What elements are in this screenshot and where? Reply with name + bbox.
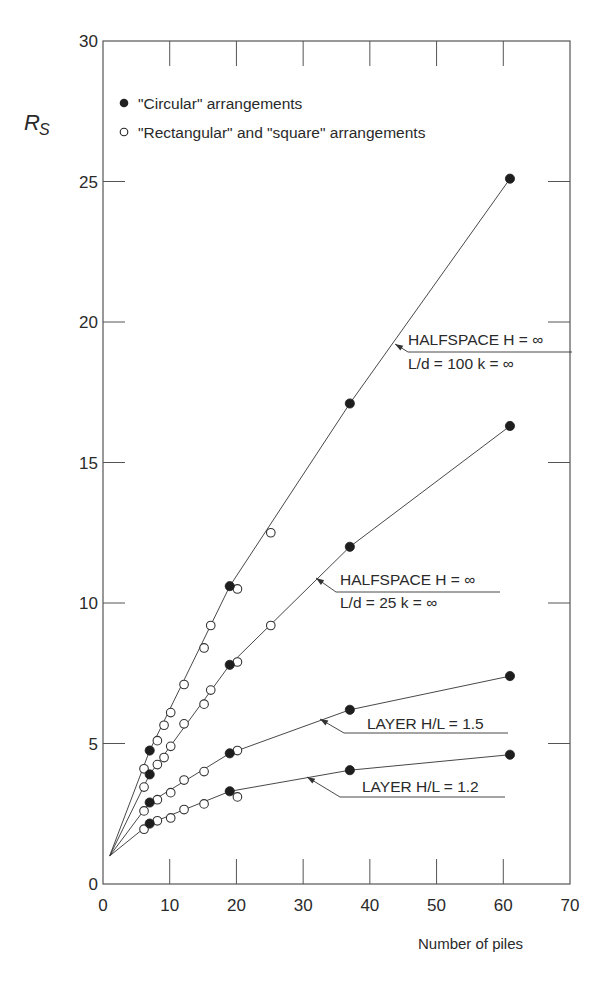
open-circle-point bbox=[206, 621, 215, 630]
series-line bbox=[110, 755, 510, 856]
filled-circle-point bbox=[505, 421, 514, 430]
open-circle-point bbox=[180, 776, 189, 785]
open-circle-point bbox=[200, 700, 209, 709]
filled-circle-point bbox=[505, 671, 514, 680]
open-circle-point bbox=[200, 644, 209, 653]
x-tick-label: 70 bbox=[561, 896, 580, 915]
y-tick-label: 20 bbox=[79, 313, 98, 332]
filled-circle-point bbox=[145, 798, 154, 807]
open-circle-point bbox=[166, 708, 175, 717]
legend-open-circle-icon bbox=[120, 128, 128, 136]
arrowhead-icon bbox=[307, 777, 315, 784]
arrowhead-icon bbox=[320, 719, 328, 725]
x-tick-label: 30 bbox=[294, 896, 313, 915]
filled-circle-point bbox=[225, 582, 234, 591]
legend-label-circular: "Circular" arrangements bbox=[138, 95, 303, 112]
series-lines bbox=[110, 179, 510, 856]
x-tick-label: 0 bbox=[98, 896, 107, 915]
legend: "Circular" arrangements "Rectangular" an… bbox=[120, 95, 426, 141]
arrowhead-icon bbox=[395, 344, 403, 351]
plot-frame bbox=[103, 41, 570, 884]
open-circle-point bbox=[166, 742, 175, 751]
filled-circle-point bbox=[145, 746, 154, 755]
series-line bbox=[110, 676, 510, 856]
y-axis-title: R S bbox=[24, 110, 50, 138]
x-tick-label: 40 bbox=[360, 896, 379, 915]
filled-circle-point bbox=[145, 770, 154, 779]
series-line bbox=[110, 179, 510, 856]
x-tick-label: 20 bbox=[227, 896, 246, 915]
x-tick-label: 60 bbox=[494, 896, 513, 915]
y-tick-label: 10 bbox=[79, 594, 98, 613]
y-tick-label: 25 bbox=[79, 173, 98, 192]
open-circle-point bbox=[233, 793, 242, 802]
legend-label-rectangular: "Rectangular" and "square" arrangements bbox=[138, 124, 426, 141]
y-axis-title-subscript: S bbox=[39, 121, 50, 138]
filled-circle-point bbox=[345, 705, 354, 714]
open-circle-point bbox=[153, 760, 162, 769]
filled-circle-point bbox=[505, 750, 514, 759]
y-tick-label: 5 bbox=[89, 735, 98, 754]
x-tick-label: 50 bbox=[427, 896, 446, 915]
annotation-label-line2: L/d = 25 k = ∞ bbox=[340, 594, 437, 611]
chart: 010203040506070051015202530 HALFSPACE H … bbox=[0, 0, 605, 982]
open-circle-point bbox=[266, 621, 275, 630]
open-circle-point bbox=[180, 680, 189, 689]
annotation-label-line1: LAYER H/L = 1.5 bbox=[367, 715, 484, 732]
annotation-label-line2: L/d = 100 k = ∞ bbox=[408, 355, 514, 372]
filled-circle-point bbox=[505, 174, 514, 183]
axis-ticks: 010203040506070051015202530 bbox=[79, 32, 579, 915]
filled-circle-point bbox=[225, 749, 234, 758]
annotation-label-line1: HALFSPACE H = ∞ bbox=[408, 331, 543, 348]
open-circle-point bbox=[166, 814, 175, 823]
open-circle-point bbox=[160, 721, 169, 730]
y-tick-label: 0 bbox=[89, 875, 98, 894]
open-circle-point bbox=[140, 783, 149, 792]
y-axis-title-main: R bbox=[24, 110, 40, 135]
y-tick-label: 15 bbox=[79, 454, 98, 473]
open-circle-point bbox=[180, 720, 189, 729]
filled-circle-point bbox=[225, 660, 234, 669]
open-circle-point bbox=[166, 788, 175, 797]
plot-border bbox=[103, 41, 570, 884]
open-circle-point bbox=[140, 807, 149, 816]
legend-filled-circle-icon bbox=[120, 99, 129, 108]
annotation-label-line1: HALFSPACE H = ∞ bbox=[340, 571, 475, 588]
open-circle-point bbox=[160, 753, 169, 762]
open-circle-point bbox=[153, 736, 162, 745]
filled-circle-point bbox=[225, 787, 234, 796]
open-circle-point bbox=[200, 767, 209, 776]
x-tick-label: 10 bbox=[160, 896, 179, 915]
annotation-label-line1: LAYER H/L = 1.2 bbox=[362, 778, 479, 795]
data-points bbox=[140, 174, 515, 833]
filled-circle-point bbox=[345, 542, 354, 551]
y-tick-label: 30 bbox=[79, 32, 98, 51]
arrowhead-icon bbox=[316, 578, 324, 585]
filled-circle-point bbox=[345, 399, 354, 408]
open-circle-point bbox=[180, 805, 189, 814]
open-circle-point bbox=[266, 528, 275, 537]
filled-circle-point bbox=[145, 819, 154, 828]
filled-circle-point bbox=[345, 766, 354, 775]
open-circle-point bbox=[200, 800, 209, 809]
open-circle-point bbox=[206, 686, 215, 695]
x-axis-title: Number of piles bbox=[418, 935, 523, 952]
